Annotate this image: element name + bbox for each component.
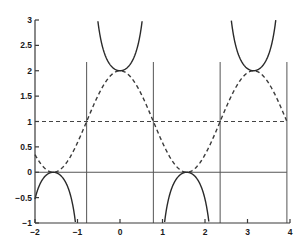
x-tick-label: 1 xyxy=(160,227,165,237)
x-tick-label: 0 xyxy=(118,227,123,237)
x-tick-label: 3 xyxy=(245,227,250,237)
chart: −1−0.500.511.522.53 −2−101234 xyxy=(0,0,305,244)
y-tick-label: 0.5 xyxy=(20,142,32,152)
x-tick-label: 4 xyxy=(288,227,293,237)
y-tick-label: 2.5 xyxy=(20,40,32,50)
x-tick-label: −1 xyxy=(73,227,83,237)
y-tick-label: 1 xyxy=(27,117,32,127)
x-tick-label: −2 xyxy=(30,227,40,237)
y-tick-label: 1.5 xyxy=(20,91,32,101)
vertical-asymptote-lines xyxy=(87,62,287,223)
y-tick-label: 0 xyxy=(27,167,32,177)
x-tick-label: 2 xyxy=(203,227,208,237)
y-tick-label: 3 xyxy=(27,15,32,25)
y-tick-label: −0.5 xyxy=(15,193,32,203)
x-tick-labels: −2−101234 xyxy=(30,219,292,237)
y-tick-label: 2 xyxy=(27,66,32,76)
